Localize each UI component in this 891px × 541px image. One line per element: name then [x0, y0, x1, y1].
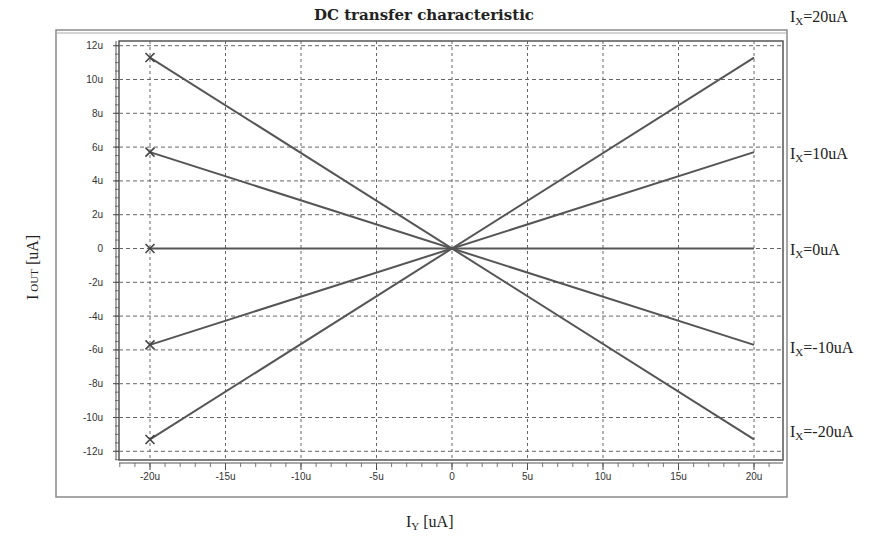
- x-tick-label: -15u: [215, 471, 235, 482]
- x-tick-label: 5u: [522, 471, 533, 482]
- y-tick-label: 6u: [92, 142, 103, 153]
- y-tick-label: -6u: [89, 344, 103, 355]
- series-label: IX=20uA: [790, 8, 848, 27]
- y-tick-label: -10u: [83, 412, 103, 423]
- x-tick-label: 15u: [670, 471, 687, 482]
- y-tick-label: -4u: [89, 311, 103, 322]
- x-tick-label: -20u: [140, 471, 160, 482]
- x-axis-label: IY [uA]: [406, 513, 454, 532]
- series-label: IX=0uA: [790, 241, 840, 260]
- series-label: IX=-20uA: [790, 423, 854, 442]
- x-tick-label: 0: [449, 471, 455, 482]
- series-label: IX=10uA: [790, 145, 848, 164]
- y-tick-label: 0: [97, 243, 103, 254]
- x-tick-label: -10u: [291, 471, 311, 482]
- series-label: IX=-10uA: [790, 339, 854, 358]
- x-axis: -20u-15u-10u-5u05u10u15u20u: [119, 463, 783, 482]
- x-tick-label: -5u: [369, 471, 383, 482]
- x-tick-label: 10u: [595, 471, 612, 482]
- chart-title: DC transfer characteristic: [314, 6, 534, 24]
- y-tick-label: -2u: [89, 277, 103, 288]
- y-tick-label: 8u: [92, 108, 103, 119]
- y-axis-label: IOUT [uA]: [24, 235, 41, 300]
- y-tick-label: 2u: [92, 209, 103, 220]
- y-tick-label: 4u: [92, 175, 103, 186]
- x-tick-label: 20u: [746, 471, 763, 482]
- y-tick-label: -12u: [83, 446, 103, 457]
- y-axis: 12u10u8u6u4u2u0-2u-4u-6u-8u-10u-12u: [83, 40, 119, 460]
- y-tick-label: 12u: [86, 40, 103, 51]
- y-tick-label: -8u: [89, 378, 103, 389]
- series-labels: IX=20uAIX=10uAIX=0uAIX=-10uAIX=-20uA: [790, 8, 854, 442]
- chart: DC transfer characteristic 12u10u8u6u4u2…: [0, 0, 891, 541]
- y-tick-label: 10u: [86, 74, 103, 85]
